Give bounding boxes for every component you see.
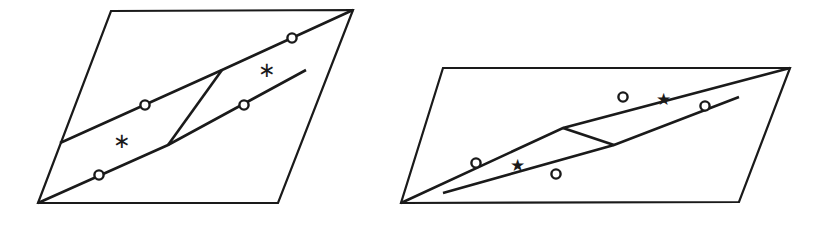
node-marker-lower-right: [239, 100, 248, 109]
node-marker-upper-left: [140, 100, 149, 109]
node-marker-lower-left: [551, 169, 560, 178]
region-label-upper: ★: [656, 90, 671, 109]
figure-canvas: ∗ ∗ ★ ★: [0, 0, 819, 227]
node-marker-upper-right: [287, 33, 296, 42]
region-label-lower: ★: [510, 156, 525, 175]
node-marker-lower-right: [700, 101, 709, 110]
region-label-upper: ∗: [258, 58, 276, 82]
region-label-lower: ∗: [113, 129, 131, 153]
node-marker-lower-left: [94, 170, 103, 179]
node-marker-upper-left: [471, 158, 480, 167]
node-marker-upper-right: [618, 92, 627, 101]
